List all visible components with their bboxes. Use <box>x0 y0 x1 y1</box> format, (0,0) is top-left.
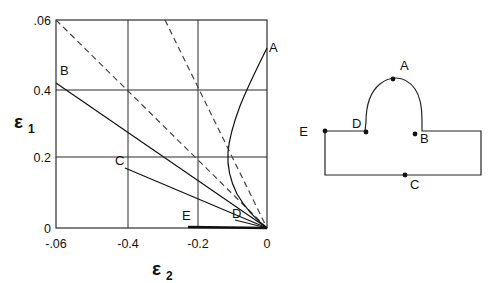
dashed-limit-left-line <box>56 20 267 228</box>
part-label-B: B <box>420 131 429 146</box>
xtick-label-1: -0.4 <box>117 237 139 251</box>
strain-path-E <box>188 227 267 228</box>
marker-dot-A <box>391 77 396 82</box>
plot-label-C: C <box>115 153 124 168</box>
plot-label-D: D <box>232 206 241 221</box>
xtick-label-2: -0.2 <box>187 237 209 251</box>
marker-dot-D <box>364 130 369 135</box>
ytick-label-3: 0 <box>44 222 51 236</box>
marker-dot-C <box>403 173 408 178</box>
part-markers <box>323 77 418 178</box>
y-axis-title-subscript: 1 <box>28 122 35 136</box>
xtick-label-3: 0 <box>264 237 271 251</box>
strain-path-A <box>228 48 267 228</box>
y-axis-title: ε 1 <box>14 111 35 136</box>
left-plot-panel: A B C D E .06 0.4 0.2 0 -.06 -0.4 -0.2 0… <box>14 14 278 283</box>
part-label-C: C <box>410 177 419 192</box>
ytick-label-2: 0.2 <box>34 151 51 165</box>
figure-root: A B C D E .06 0.4 0.2 0 -.06 -0.4 -0.2 0… <box>0 0 497 283</box>
marker-dot-E <box>323 129 328 134</box>
plot-label-B: B <box>60 63 69 78</box>
strain-path-C <box>125 168 267 228</box>
y-axis-title-symbol: ε <box>14 111 23 132</box>
dashed-limit-right-line <box>165 20 267 228</box>
ytick-label-0: .06 <box>34 14 51 28</box>
xtick-label-0: -.06 <box>45 237 67 251</box>
ytick-label-1: 0.4 <box>34 84 51 98</box>
strain-path-curves <box>56 48 267 228</box>
x-axis-title-symbol: ε <box>152 258 161 279</box>
x-axis-title-subscript: 2 <box>166 269 173 283</box>
marker-dot-B <box>413 132 418 137</box>
part-label-A: A <box>400 58 409 73</box>
part-outline <box>325 78 481 175</box>
part-label-D: D <box>352 116 361 131</box>
right-diagram-panel: A B C D E <box>299 58 481 192</box>
dashed-reference-lines <box>56 20 267 228</box>
plot-label-E: E <box>182 208 191 223</box>
x-axis-title: ε 2 <box>152 258 173 283</box>
part-label-E: E <box>299 124 308 139</box>
plot-label-A: A <box>269 40 278 55</box>
figure-svg: A B C D E .06 0.4 0.2 0 -.06 -0.4 -0.2 0… <box>0 0 497 283</box>
